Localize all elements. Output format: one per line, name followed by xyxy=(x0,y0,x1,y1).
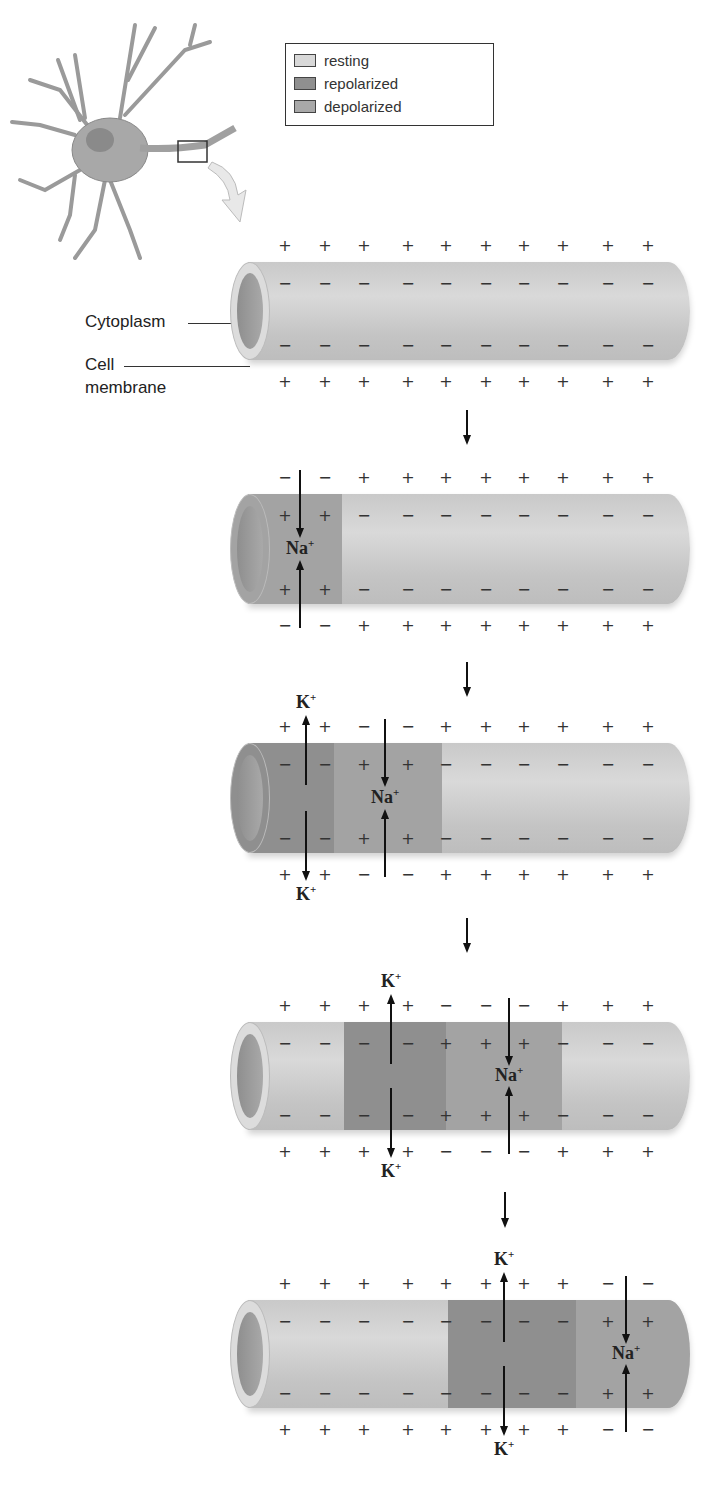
legend-item-resting: resting xyxy=(294,50,369,70)
charge-negative: − xyxy=(517,831,531,847)
charge-positive: + xyxy=(601,374,615,390)
potassium-ion: K+ xyxy=(381,1160,401,1182)
potassium-efflux-arrow-bottom xyxy=(230,713,231,714)
stage-propagation-2: ++++−−−+++−−−−+++−−−−−−−+++−−−++++−−−+++… xyxy=(230,992,700,1160)
charge-positive: + xyxy=(357,757,371,773)
charge-positive: + xyxy=(318,719,332,735)
charge-negative: − xyxy=(401,338,415,354)
charge-positive: + xyxy=(278,374,292,390)
charge-negative: − xyxy=(601,338,615,354)
charge-negative: − xyxy=(556,1108,570,1124)
charge-positive: + xyxy=(401,1144,415,1160)
charge-positive: + xyxy=(439,719,453,735)
charge-positive: + xyxy=(439,1036,453,1052)
charge-positive: + xyxy=(479,1036,493,1052)
charge-positive: + xyxy=(601,238,615,254)
charge-positive: + xyxy=(641,374,655,390)
charge-positive: + xyxy=(401,374,415,390)
legend-swatch-repolarized xyxy=(294,77,316,90)
charge-negative: − xyxy=(641,582,655,598)
charge-positive: + xyxy=(278,867,292,883)
charge-positive: + xyxy=(278,508,292,524)
charge-negative: − xyxy=(517,276,531,292)
charge-negative: − xyxy=(517,1144,531,1160)
charge-negative: − xyxy=(401,719,415,735)
charge-positive: + xyxy=(601,867,615,883)
charge-negative: − xyxy=(439,338,453,354)
charge-negative: − xyxy=(601,831,615,847)
charge-positive: + xyxy=(556,470,570,486)
cytoplasm-opening xyxy=(237,755,263,841)
charge-negative: − xyxy=(601,1036,615,1052)
potassium-efflux-arrow-bottom xyxy=(230,1270,231,1271)
charge-positive: + xyxy=(357,1422,371,1438)
axon-end-cap xyxy=(230,743,270,853)
charge-negative: − xyxy=(278,757,292,773)
potassium-ion: K+ xyxy=(296,691,316,713)
charge-negative: − xyxy=(357,867,371,883)
sodium-ion: Na+ xyxy=(612,1342,640,1364)
charge-negative: − xyxy=(479,338,493,354)
charge-positive: + xyxy=(357,470,371,486)
charge-positive: + xyxy=(439,1108,453,1124)
charge-positive: + xyxy=(318,1144,332,1160)
axon-segment xyxy=(230,1022,690,1130)
charge-positive: + xyxy=(556,1276,570,1292)
charge-negative: − xyxy=(357,1036,371,1052)
charge-negative: − xyxy=(601,276,615,292)
charge-positive: + xyxy=(278,582,292,598)
charge-negative: − xyxy=(401,1386,415,1402)
potassium-ion-label: K+ xyxy=(494,1249,514,1269)
charge-negative: − xyxy=(641,757,655,773)
charge-positive: + xyxy=(641,719,655,735)
charge-positive: + xyxy=(556,374,570,390)
charge-positive: + xyxy=(357,238,371,254)
charge-negative: − xyxy=(439,582,453,598)
cytoplasm-opening xyxy=(237,506,263,592)
charge-positive: + xyxy=(318,238,332,254)
charge-positive: + xyxy=(439,470,453,486)
charge-positive: + xyxy=(357,374,371,390)
potassium-ion-label: K+ xyxy=(494,1439,514,1459)
charge-positive: + xyxy=(401,757,415,773)
charge-positive: + xyxy=(439,238,453,254)
charge-negative: − xyxy=(439,1144,453,1160)
charge-positive: + xyxy=(401,618,415,634)
charge-negative: − xyxy=(556,1036,570,1052)
sodium-ion-label: Na+ xyxy=(495,1065,523,1085)
potassium-ion: K+ xyxy=(494,1438,514,1460)
charge-positive: + xyxy=(641,618,655,634)
charge-positive: + xyxy=(479,867,493,883)
charge-negative: − xyxy=(278,1036,292,1052)
sodium-influx-arrow-bottom xyxy=(230,464,231,465)
charge-positive: + xyxy=(641,1386,655,1402)
charge-negative: − xyxy=(401,508,415,524)
charge-negative: − xyxy=(357,338,371,354)
charge-negative: − xyxy=(318,1108,332,1124)
charge-positive: + xyxy=(439,618,453,634)
charge-positive: + xyxy=(278,1144,292,1160)
axon-body xyxy=(248,262,690,360)
charge-negative: − xyxy=(278,276,292,292)
axon-body xyxy=(248,494,690,604)
axon-segment xyxy=(230,262,690,360)
stage-depolarization-start: −−++++++++++−−−−−−−−++−−−−−−−−−−++++++++… xyxy=(230,464,700,634)
charge-positive: + xyxy=(641,470,655,486)
charge-positive: + xyxy=(401,831,415,847)
charge-negative: − xyxy=(278,1386,292,1402)
stage-resting: ++++++++++−−−−−−−−−−−−−−−−−−−−++++++++++ xyxy=(230,232,700,390)
legend-swatch-depolarized xyxy=(294,100,316,113)
charge-negative: − xyxy=(318,470,332,486)
charge-negative: − xyxy=(479,582,493,598)
legend-item-repolarized: repolarized xyxy=(294,73,398,93)
charge-negative: − xyxy=(601,582,615,598)
charge-positive: + xyxy=(517,719,531,735)
charge-positive: + xyxy=(318,1276,332,1292)
charge-positive: + xyxy=(318,1422,332,1438)
charge-positive: + xyxy=(517,238,531,254)
charge-positive: + xyxy=(556,867,570,883)
charge-positive: + xyxy=(401,998,415,1014)
charge-negative: − xyxy=(357,1314,371,1330)
charge-negative: − xyxy=(401,867,415,883)
stage-propagation-1: ++−−++++++−−++−−−−−−−−++−−−−−−++−−++++++… xyxy=(230,713,700,883)
